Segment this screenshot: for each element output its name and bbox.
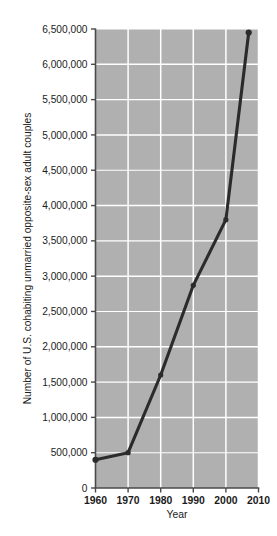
y-tick-label: 3,000,000 xyxy=(42,271,88,282)
y-tick-label: 1,000,000 xyxy=(42,412,88,423)
y-tick-label: 2,500,000 xyxy=(42,306,88,317)
data-point-marker xyxy=(126,450,131,455)
x-axis-ticks: 196019701980199020002010 xyxy=(84,488,270,506)
x-tick-label: 1960 xyxy=(84,495,107,506)
y-tick-label: 3,500,000 xyxy=(42,235,88,246)
y-tick-label: 4,500,000 xyxy=(42,165,88,176)
y-tick-label: 5,500,000 xyxy=(42,94,88,105)
data-point-marker xyxy=(223,217,228,222)
data-point-marker xyxy=(92,457,98,463)
x-tick-label: 2010 xyxy=(247,495,270,506)
line-chart: 0500,0001,000,0001,500,0002,000,0002,500… xyxy=(0,0,277,536)
x-tick-label: 1980 xyxy=(149,495,172,506)
y-tick-label: 2,000,000 xyxy=(42,341,88,352)
x-axis-label: Year xyxy=(167,509,189,520)
y-axis-ticks: 0500,0001,000,0001,500,0002,000,0002,500… xyxy=(42,24,95,494)
x-tick-label: 2000 xyxy=(214,495,237,506)
x-tick-label: 1990 xyxy=(182,495,205,506)
y-tick-label: 500,000 xyxy=(51,447,88,458)
figure-container: 0500,0001,000,0001,500,0002,000,0002,500… xyxy=(0,0,277,536)
y-tick-label: 6,500,000 xyxy=(42,24,88,35)
y-tick-label: 4,000,000 xyxy=(42,200,88,211)
x-tick-label: 1970 xyxy=(117,495,140,506)
data-point-marker xyxy=(158,372,163,377)
y-tick-label: 5,000,000 xyxy=(42,130,88,141)
y-tick-label: 1,500,000 xyxy=(42,377,88,388)
plot-area-background xyxy=(96,29,259,488)
data-point-marker xyxy=(191,283,196,288)
y-axis-label: Number of U.S. cohabiting unmarried oppo… xyxy=(22,113,33,405)
data-point-marker xyxy=(246,29,252,35)
y-tick-label: 0 xyxy=(82,483,88,494)
y-tick-label: 6,000,000 xyxy=(42,59,88,70)
